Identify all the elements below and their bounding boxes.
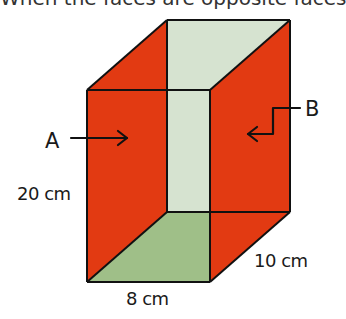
label-depth: 10 cm (254, 250, 308, 271)
label-face-b: B (305, 97, 319, 121)
label-width: 8 cm (126, 288, 169, 309)
label-height: 20 cm (17, 183, 71, 204)
label-face-a: A (45, 129, 60, 153)
